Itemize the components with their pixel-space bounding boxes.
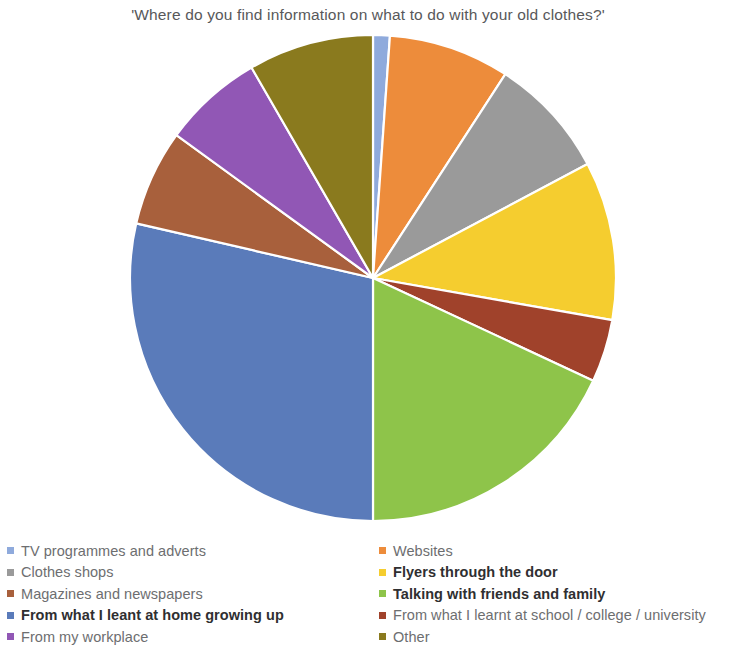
legend-item-label: Magazines and newspapers — [21, 586, 203, 602]
legend-item[interactable]: Flyers through the door — [378, 562, 736, 584]
legend-item-label: From my workplace — [21, 629, 148, 645]
legend-column-left: TV programmes and advertsClothes shopsMa… — [6, 540, 386, 648]
pie-slices-group — [130, 35, 616, 521]
legend-swatch-icon — [7, 590, 14, 597]
legend-swatch-icon — [7, 633, 14, 640]
legend-swatch-icon — [379, 612, 386, 619]
pie-plot-area — [0, 0, 736, 540]
legend-swatch-icon — [7, 569, 14, 576]
legend-item-label: Talking with friends and family — [393, 586, 605, 602]
legend-item-label: From what I learnt at school / college /… — [393, 607, 706, 623]
legend-item-label: TV programmes and adverts — [21, 543, 206, 559]
legend-item-label: Websites — [393, 543, 453, 559]
legend-swatch-icon — [379, 590, 386, 597]
legend-item[interactable]: Magazines and newspapers — [6, 583, 386, 605]
pie-chart-figure: 'Where do you find information on what t… — [0, 0, 736, 656]
legend-item-label: Other — [393, 629, 430, 645]
legend-column-right: WebsitesFlyers through the doorTalking w… — [378, 540, 736, 648]
legend-swatch-icon — [7, 612, 14, 619]
legend-swatch-icon — [7, 547, 14, 554]
legend-item[interactable]: Talking with friends and family — [378, 583, 736, 605]
legend-item[interactable]: Clothes shops — [6, 562, 386, 584]
pie-svg — [0, 0, 736, 540]
legend-item-label: Clothes shops — [21, 564, 114, 580]
legend-item-label: Flyers through the door — [393, 564, 558, 580]
legend-swatch-icon — [379, 569, 386, 576]
legend-item[interactable]: From my workplace — [6, 626, 386, 648]
legend-item-label: From what I leant at home growing up — [21, 607, 284, 623]
chart-legend: TV programmes and advertsClothes shopsMa… — [0, 540, 736, 656]
legend-item[interactable]: Other — [378, 626, 736, 648]
legend-item[interactable]: From what I learnt at school / college /… — [378, 605, 736, 627]
legend-swatch-icon — [379, 633, 386, 640]
legend-swatch-icon — [379, 547, 386, 554]
legend-item[interactable]: TV programmes and adverts — [6, 540, 386, 562]
legend-item[interactable]: Websites — [378, 540, 736, 562]
legend-item[interactable]: From what I leant at home growing up — [6, 605, 386, 627]
